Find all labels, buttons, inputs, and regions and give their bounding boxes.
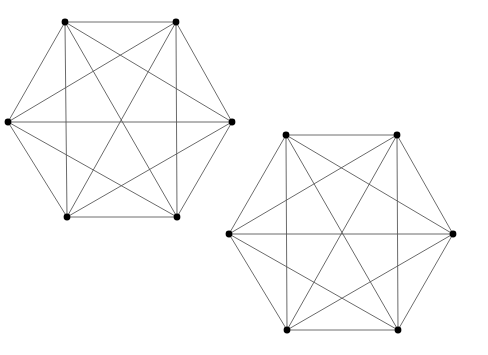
graph-vertex-A: [62, 19, 69, 26]
graph-vertex-D: [395, 327, 402, 334]
graph-vertex-A: [283, 132, 290, 139]
graph-vertex-E: [64, 214, 71, 221]
graph-vertex-B: [394, 132, 401, 139]
graph-diagram-canvas: [0, 0, 488, 355]
canvas-background: [0, 0, 488, 355]
graph-vertex-B: [173, 19, 180, 26]
graph-vertex-F: [5, 119, 12, 126]
figure-root: [0, 0, 488, 355]
graph-vertex-F: [226, 231, 233, 238]
graph-vertex-C: [229, 119, 236, 126]
graph-vertex-D: [174, 214, 181, 221]
graph-vertex-C: [450, 231, 457, 238]
graph-vertex-E: [284, 327, 291, 334]
